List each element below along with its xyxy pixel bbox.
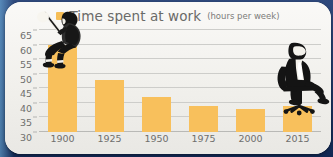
x-axis-tick-label: 1900 xyxy=(50,133,74,144)
y-axis-tick-mark xyxy=(33,117,37,118)
x-axis-tick-label: 2000 xyxy=(238,133,262,144)
y-axis-tick-mark xyxy=(33,88,37,89)
bar-1925 xyxy=(95,80,123,132)
chart-card: Time spent at work (hours per week) 3035… xyxy=(5,2,331,154)
x-axis-labels: 190019251950197520002015 xyxy=(39,133,321,149)
y-axis-tick-mark xyxy=(33,73,37,74)
chart-screenshot: Time spent at work (hours per week) 3035… xyxy=(0,0,333,157)
x-axis-tick-label: 1975 xyxy=(191,133,215,144)
y-axis-tick-mark xyxy=(33,132,37,133)
y-axis-tick-mark xyxy=(33,102,37,103)
businessman-on-office-chair-silhouette xyxy=(269,40,331,116)
x-axis-tick-label: 1950 xyxy=(144,133,168,144)
bar-2000 xyxy=(236,109,264,132)
bar-1950 xyxy=(142,97,170,132)
chart-subtitle: (hours per week) xyxy=(207,11,279,21)
x-axis-tick-label: 2015 xyxy=(285,133,309,144)
bar-1975 xyxy=(189,106,217,132)
x-axis-tick-label: 1925 xyxy=(97,133,121,144)
worker-with-pickaxe-silhouette xyxy=(32,9,90,71)
